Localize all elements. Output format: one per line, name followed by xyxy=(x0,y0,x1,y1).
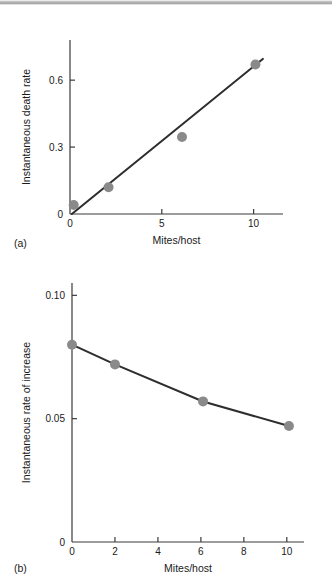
x-tick-label: 4 xyxy=(155,546,161,557)
regression-line xyxy=(72,59,263,214)
data-point-marker xyxy=(67,340,77,350)
y-tick-label: 0.6 xyxy=(49,75,63,86)
data-point-marker xyxy=(284,421,294,431)
x-tick-label: 2 xyxy=(112,546,118,557)
x-axis-title: Mites/host xyxy=(164,562,212,574)
data-point-marker xyxy=(69,200,79,210)
panel-tag: (b) xyxy=(14,562,27,574)
x-tick-label: 8 xyxy=(241,546,247,557)
x-tick-label: 5 xyxy=(159,218,165,229)
x-tick-label: 10 xyxy=(281,546,293,557)
x-tick-label: 10 xyxy=(248,218,260,229)
x-tick-label: 0 xyxy=(69,546,75,557)
x-axis-title: Mites/host xyxy=(153,234,201,246)
chart-a-svg: 00.30.60510Mites/hostInstantaneous death… xyxy=(0,5,332,250)
y-tick-label: 0.3 xyxy=(49,142,63,153)
panel-tag: (a) xyxy=(14,237,27,249)
y-tick-label: 0.05 xyxy=(46,413,66,424)
y-tick-label: 0.10 xyxy=(46,290,66,301)
y-tick-label: 0 xyxy=(59,537,65,548)
panel-a-death-rate: 00.30.60510Mites/hostInstantaneous death… xyxy=(0,5,332,250)
x-tick-label: 6 xyxy=(198,546,204,557)
panel-b-rate-of-increase: 00.050.100246810Mites/hostInstantaneous … xyxy=(0,255,332,575)
data-point-marker xyxy=(250,60,260,70)
data-point-marker xyxy=(198,396,208,406)
data-line xyxy=(72,345,289,426)
x-tick-label: 0 xyxy=(67,218,73,229)
data-point-marker xyxy=(104,182,114,192)
y-axis-title: Instantaneous death rate xyxy=(20,69,32,185)
y-axis-title: Instantaneous rate of increase xyxy=(20,342,32,483)
data-point-marker xyxy=(110,359,120,369)
y-tick-label: 0 xyxy=(57,209,63,220)
data-point-marker xyxy=(177,132,187,142)
chart-b-svg: 00.050.100246810Mites/hostInstantaneous … xyxy=(0,255,332,575)
